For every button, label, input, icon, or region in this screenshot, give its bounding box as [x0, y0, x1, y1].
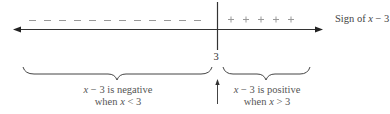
negative-region-caption: x − 3 is negative when x < 3 — [84, 84, 153, 108]
critical-point-label: 3 — [213, 51, 218, 63]
positive-signs — [228, 17, 294, 23]
right-arrowhead-icon — [315, 27, 323, 33]
left-arrowhead-icon — [13, 27, 21, 33]
left-brace-icon — [23, 67, 212, 80]
positive-caption-line2: when x > 3 — [234, 96, 301, 108]
title-suffix: − 3 — [373, 13, 389, 24]
negative-caption-line1: x − 3 is negative — [84, 84, 153, 96]
sign-chart-graphic — [0, 0, 390, 114]
sign-chart-title: Sign of x − 3 — [335, 13, 389, 25]
title-prefix: Sign of — [335, 13, 368, 24]
negative-caption-line2: when x < 3 — [84, 96, 153, 108]
right-brace-icon — [223, 67, 310, 80]
up-arrow-icon — [215, 79, 219, 85]
positive-caption-line1: x − 3 is positive — [234, 84, 301, 96]
positive-region-caption: x − 3 is positive when x > 3 — [234, 84, 301, 108]
